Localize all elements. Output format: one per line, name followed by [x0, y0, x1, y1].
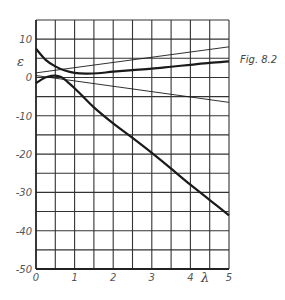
x-tick-label: 5	[226, 272, 232, 283]
x-tick-label: 0	[33, 272, 39, 283]
grid	[36, 20, 229, 269]
y-tick-label: -10	[16, 111, 32, 122]
x-tick-label: 1	[71, 272, 77, 283]
chart: 100-10-20-30-40-50012345 ε λ Fig. 8.2	[0, 0, 285, 300]
y-tick-label: 10	[19, 34, 32, 45]
y-tick-label: -50	[16, 264, 32, 275]
y-axis-label: ε	[17, 54, 24, 69]
figure-label: Fig. 8.2	[240, 54, 277, 65]
x-tick-label: 4	[187, 272, 193, 283]
y-tick-label: -20	[16, 149, 32, 160]
x-tick-label: 2	[110, 272, 116, 283]
y-tick-label: -30	[16, 187, 32, 198]
x-axis-label: λ	[200, 270, 209, 285]
y-tick-label: -40	[16, 226, 32, 237]
y-tick-label: 0	[26, 72, 32, 83]
x-tick-label: 3	[149, 272, 155, 283]
